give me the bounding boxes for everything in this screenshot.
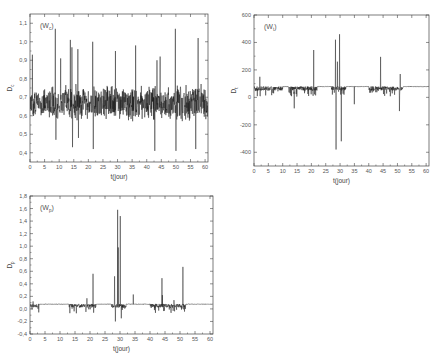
figure-caption-cutoff — [4, 354, 434, 362]
data-series-line — [30, 29, 208, 151]
panel-label: (Wc) — [40, 22, 54, 31]
x-tick-label: 5 — [267, 168, 270, 174]
y-tick-label: 400 — [242, 39, 251, 45]
x-tick-label: 20 — [85, 164, 91, 170]
x-tick-label: 50 — [173, 164, 179, 170]
x-tick-label: 45 — [162, 336, 168, 342]
y-tick-label: -200 — [240, 122, 251, 128]
y-tick-label: 0,6 — [19, 268, 27, 274]
y-axis-title: Dt — [230, 87, 239, 94]
x-tick-label: 55 — [187, 164, 193, 170]
y-tick-label: -0,2 — [18, 318, 27, 324]
x-tick-label: 60 — [423, 168, 429, 174]
x-tick-label: 5 — [43, 164, 46, 170]
x-tick-label: 0 — [252, 168, 255, 174]
y-tick-label: 0,9 — [19, 57, 27, 63]
y-tick-label: 1,6 — [19, 206, 27, 212]
x-tick-label: 40 — [144, 164, 150, 170]
x-axis-title: t(jour) — [111, 173, 128, 181]
x-tick-label: 10 — [56, 164, 62, 170]
y-tick-label: 0,0 — [19, 306, 27, 312]
y-tick-label: 1,2 — [19, 231, 27, 237]
y-tick-label: 1,0 — [19, 39, 27, 45]
y-tick-label: 1,8 — [19, 193, 27, 199]
x-tick-label: 0 — [28, 164, 31, 170]
y-tick-label: 0,7 — [19, 94, 27, 100]
x-tick-label: 55 — [409, 168, 415, 174]
x-tick-label: 20 — [308, 168, 314, 174]
data-series-line — [30, 210, 213, 322]
x-tick-label: 50 — [177, 336, 183, 342]
y-tick-label: 0,2 — [19, 293, 27, 299]
y-tick-label: -400 — [240, 149, 251, 155]
x-tick-label: 30 — [114, 164, 120, 170]
x-tick-label: 35 — [129, 164, 135, 170]
x-tick-label: 60 — [207, 336, 213, 342]
y-tick-label: 0,8 — [19, 76, 27, 82]
x-tick-label: 10 — [57, 336, 63, 342]
chart-panel-wp: 051015202530354045505560-0,4-0,20,00,20,… — [30, 196, 213, 334]
x-tick-label: 5 — [43, 336, 46, 342]
x-tick-label: 50 — [394, 168, 400, 174]
y-tick-label: -0,4 — [18, 331, 27, 337]
panel-label: (Wt) — [264, 23, 277, 32]
x-tick-label: 20 — [87, 336, 93, 342]
y-axis-title: Dc — [6, 84, 15, 92]
y-tick-label: 0,6 — [19, 113, 27, 119]
x-tick-label: 0 — [28, 336, 31, 342]
x-tick-label: 35 — [132, 336, 138, 342]
plot-frame — [30, 14, 208, 162]
chart-svg: 0510152025303540455055600,40,50,60,70,80… — [30, 14, 208, 162]
x-tick-label: 25 — [100, 164, 106, 170]
y-tick-label: 1,1 — [19, 20, 27, 26]
chart-panel-wc: 0510152025303540455055600,40,50,60,70,80… — [30, 14, 208, 162]
panel-label: (Wp) — [40, 204, 54, 213]
x-axis-title: t(jour) — [333, 177, 350, 185]
x-tick-label: 25 — [102, 336, 108, 342]
x-tick-label: 25 — [323, 168, 329, 174]
x-tick-label: 15 — [72, 336, 78, 342]
y-tick-label: 0,8 — [19, 256, 27, 262]
data-series-line — [254, 34, 429, 149]
y-tick-label: 200 — [242, 67, 251, 73]
x-tick-label: 45 — [158, 164, 164, 170]
y-tick-label: 0,4 — [19, 281, 27, 287]
y-tick-label: 600 — [242, 12, 251, 18]
x-tick-label: 60 — [202, 164, 208, 170]
x-tick-label: 40 — [147, 336, 153, 342]
y-tick-label: 0,4 — [19, 150, 27, 156]
y-tick-label: 1,4 — [19, 218, 27, 224]
x-tick-label: 10 — [280, 168, 286, 174]
y-tick-label: 0,5 — [19, 131, 27, 137]
y-tick-label: 0 — [248, 94, 251, 100]
x-tick-label: 15 — [294, 168, 300, 174]
x-tick-label: 15 — [71, 164, 77, 170]
x-tick-label: 30 — [337, 168, 343, 174]
chart-svg: 051015202530354045505560-0,4-0,20,00,20,… — [30, 196, 213, 334]
x-tick-label: 40 — [366, 168, 372, 174]
y-axis-title: Dp — [6, 261, 15, 269]
y-tick-label: 1,0 — [19, 243, 27, 249]
chart-svg: 051015202530354045505560-400-20002004006… — [254, 15, 429, 166]
x-tick-label: 55 — [192, 336, 198, 342]
x-tick-label: 30 — [117, 336, 123, 342]
x-tick-label: 35 — [351, 168, 357, 174]
chart-panel-wt: 051015202530354045505560-400-20002004006… — [254, 15, 429, 166]
x-axis-title: t(jour) — [113, 345, 130, 353]
x-tick-label: 45 — [380, 168, 386, 174]
